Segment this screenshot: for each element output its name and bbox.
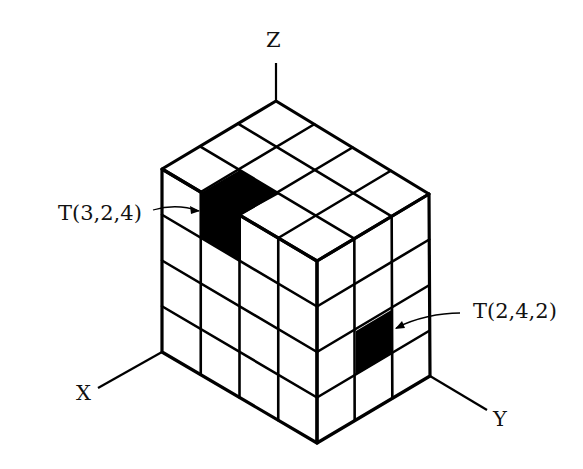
z-axis-label: Z <box>266 28 281 52</box>
x-axis-line <box>98 352 162 388</box>
x-axis-label: X <box>76 381 91 405</box>
cube-faces <box>162 101 430 443</box>
callout-label-t324: T(3,2,4) <box>58 201 142 225</box>
y-axis-line <box>430 376 487 410</box>
y-axis-label: Y <box>492 407 508 431</box>
callout-label-t242: T(2,4,2) <box>473 299 557 323</box>
cube-diagram: Z X Y T(3,2,4) T(2,4,2) <box>0 0 583 469</box>
